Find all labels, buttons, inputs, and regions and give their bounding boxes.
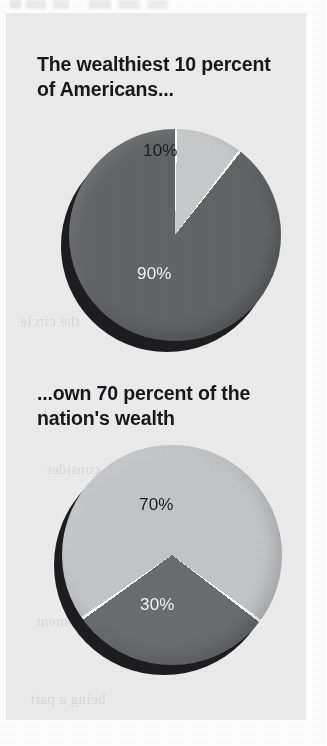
cropped-headline-remnant xyxy=(10,0,190,9)
pie-slice-label-10-percent: 10% xyxy=(143,141,178,161)
infographic-panel: the circle and into consider A moment ow… xyxy=(6,13,306,720)
chart-caption-bottom: ...own 70 percent of the nation's wealth xyxy=(37,381,292,431)
pie-chart-2-face xyxy=(62,445,282,665)
pie-slice-label-30-percent: 30% xyxy=(140,595,175,615)
ghost-showthrough-text: being a part xyxy=(30,691,106,708)
chart-caption-top: The wealthiest 10 percent of Americans..… xyxy=(37,52,292,102)
pie-chart-wealth: 70% 30% xyxy=(54,445,282,683)
pie-chart-americans: 10% 90% xyxy=(61,129,281,361)
pie-slice-label-90-percent: 90% xyxy=(137,264,172,284)
pie-slice-label-70-percent: 70% xyxy=(139,495,174,515)
